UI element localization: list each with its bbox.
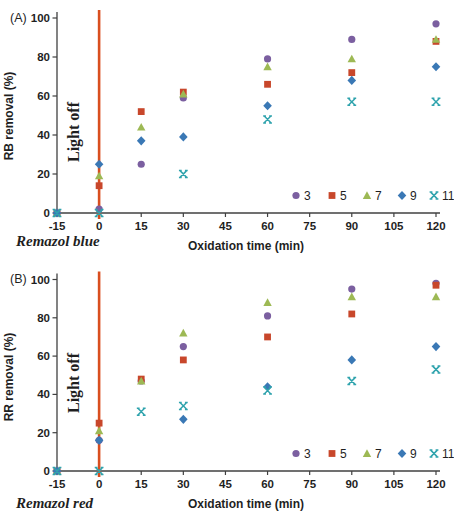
y-tick-label: 40 xyxy=(37,388,50,400)
x-tick-label: 75 xyxy=(303,478,316,490)
data-point-ph9-t30 xyxy=(179,132,188,141)
x-tick-label: 30 xyxy=(177,478,190,490)
x-axis-title: Oxidation time (min) xyxy=(188,497,304,511)
y-tick-label: 80 xyxy=(37,312,50,324)
legend-marker-diamond xyxy=(398,449,407,458)
legend-item-ph-11: 11 xyxy=(430,189,454,203)
legend-item-ph-7: 7 xyxy=(363,447,382,461)
legend-item-ph-5: 5 xyxy=(329,189,347,203)
x-axis-title: Oxidation time (min) xyxy=(188,239,304,253)
legend-marker-triangle xyxy=(363,191,371,199)
y-tick-label: 60 xyxy=(37,90,50,102)
x-tick-label: 60 xyxy=(261,478,274,490)
legend-label: 7 xyxy=(375,447,382,461)
series-ph-3 xyxy=(53,20,439,216)
legend-item-ph-11: 11 xyxy=(430,447,454,461)
data-point-ph5-t15 xyxy=(138,108,145,115)
x-tick-label: 45 xyxy=(219,478,232,490)
x-tick-label: -15 xyxy=(49,220,66,232)
light-off-annotation: Light off xyxy=(65,101,83,162)
data-point-ph3-t30 xyxy=(180,343,187,350)
legend-marker-square xyxy=(329,192,336,199)
x-tick-label: 120 xyxy=(426,478,445,490)
series-ph-9 xyxy=(53,62,441,217)
legend-label: 3 xyxy=(304,447,311,461)
data-point-ph11-t120 xyxy=(432,98,441,105)
data-point-ph11-t30 xyxy=(179,171,188,178)
legend-label: 11 xyxy=(442,189,454,203)
light-off-annotation: Light off xyxy=(65,352,83,413)
data-point-ph5-t90 xyxy=(348,69,355,76)
y-axis-title: RB removal (%) xyxy=(2,72,16,161)
series-ph-7 xyxy=(53,292,440,474)
data-point-ph7-t90 xyxy=(348,55,356,63)
y-tick-label: 80 xyxy=(37,51,50,63)
y-tick-label: 60 xyxy=(37,350,50,362)
legend-label: 11 xyxy=(442,447,454,461)
y-tick-label: 0 xyxy=(44,465,50,477)
data-point-ph7-t0 xyxy=(95,426,103,434)
legend-label: 3 xyxy=(304,189,311,203)
y-axis-title: RR removal (%) xyxy=(2,333,16,422)
legend-label: 5 xyxy=(340,189,347,203)
legend-label: 9 xyxy=(410,189,417,203)
data-point-ph3-t90 xyxy=(348,285,355,292)
series-ph-11 xyxy=(53,98,441,216)
data-point-ph7-t60 xyxy=(263,298,271,306)
x-tick-label: 30 xyxy=(177,220,190,232)
x-tick-label: 45 xyxy=(219,220,232,232)
series-ph-5 xyxy=(54,282,440,475)
x-tick-label: 90 xyxy=(345,478,358,490)
legend-label: 9 xyxy=(410,447,417,461)
data-point-ph9-t0 xyxy=(95,436,104,445)
series-ph-9 xyxy=(53,342,441,476)
data-point-ph11-t120 xyxy=(432,366,441,373)
data-point-ph5-t60 xyxy=(264,334,271,341)
data-point-ph11-t15 xyxy=(137,408,146,415)
data-point-ph9-t15 xyxy=(137,136,146,145)
series-ph-7 xyxy=(53,35,440,216)
x-tick-label: -15 xyxy=(49,478,66,490)
data-point-ph3-t60 xyxy=(264,312,271,319)
data-point-ph7-t15 xyxy=(137,123,145,131)
x-tick-label: 15 xyxy=(135,478,148,490)
y-tick-label: 100 xyxy=(31,274,50,286)
data-point-ph9-t90 xyxy=(347,355,356,364)
data-point-ph11-t90 xyxy=(347,377,356,384)
x-tick-label: 75 xyxy=(303,220,316,232)
data-point-ph9-t120 xyxy=(432,342,441,351)
data-point-ph7-t60 xyxy=(263,62,271,70)
legend-marker-circle xyxy=(292,450,299,457)
legend-item-ph-3: 3 xyxy=(292,189,311,203)
series-ph-11 xyxy=(53,366,441,474)
chart-panel-b: 020406080100-150153045607590105120Light … xyxy=(0,262,454,525)
data-point-ph5-t90 xyxy=(348,311,355,318)
data-point-ph11-t90 xyxy=(347,98,356,105)
y-tick-label: 20 xyxy=(37,168,50,180)
legend-marker-square xyxy=(329,450,336,457)
chart-panel-a: 020406080100-150153045607590105120Light … xyxy=(0,0,454,262)
data-point-ph9-t90 xyxy=(347,76,356,85)
x-tick-label: 60 xyxy=(261,220,274,232)
series-ph-3 xyxy=(53,280,439,475)
legend-label: 5 xyxy=(340,447,347,461)
chart-caption: Remazol blue xyxy=(15,233,100,249)
x-tick-label: 15 xyxy=(135,220,148,232)
y-tick-label: 0 xyxy=(44,207,50,219)
y-tick-label: 100 xyxy=(31,12,50,24)
x-tick-label: 105 xyxy=(384,220,404,232)
data-point-ph7-t120 xyxy=(432,292,440,300)
data-point-ph7-t30 xyxy=(179,329,187,337)
x-tick-label: 90 xyxy=(345,220,358,232)
y-tick-label: 40 xyxy=(37,129,50,141)
x-tick-label: 120 xyxy=(426,220,445,232)
data-point-ph5-t60 xyxy=(264,81,271,88)
data-point-ph5-t0 xyxy=(96,420,103,427)
legend-marker-circle xyxy=(292,192,299,199)
legend-marker-xmark xyxy=(430,450,439,457)
x-tick-label: 0 xyxy=(96,220,102,232)
legend-marker-diamond xyxy=(398,191,407,200)
data-point-ph11-t30 xyxy=(179,402,188,409)
data-point-ph7-t90 xyxy=(348,292,356,300)
x-tick-label: 0 xyxy=(96,478,102,490)
